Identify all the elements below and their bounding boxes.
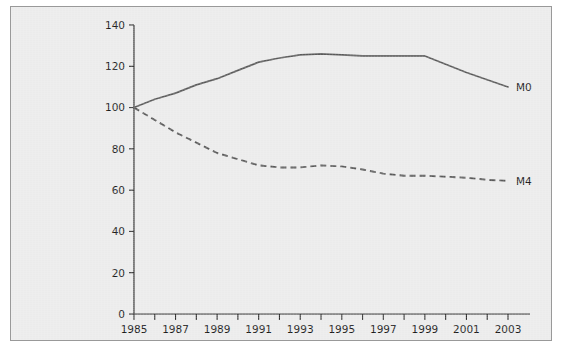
series-line-m4 [134,108,508,181]
y-tick-label: 140 [105,19,125,31]
chart-figure: 020406080100120140 198519871989199119931… [10,6,552,341]
x-tick-label: 1997 [370,323,397,335]
x-tick-label: 2003 [495,323,522,335]
y-tick-label: 100 [105,101,125,113]
x-axis: 1985198719891991199319951997199920012003 [121,314,530,335]
x-tick-label: 1987 [162,323,189,335]
y-tick-label: 40 [112,225,125,237]
x-tick-label: 1995 [328,323,355,335]
line-chart: 020406080100120140 198519871989199119931… [11,7,553,342]
x-tick-label: 1993 [287,323,314,335]
series-label-m0: M0 [516,81,532,93]
x-tick-label: 2001 [453,323,480,335]
x-tick-label: 1991 [245,323,272,335]
series-line-m0 [134,54,508,108]
y-tick-label: 0 [118,308,125,320]
y-tick-label: 120 [105,60,125,72]
x-tick-label: 1999 [412,323,439,335]
series-label-m4: M4 [516,175,532,187]
y-tick-label: 80 [112,143,125,155]
y-tick-label: 20 [112,267,125,279]
series-group [134,54,508,181]
series-labels: M0M4 [516,81,532,187]
y-tick-label: 60 [112,184,125,196]
x-tick-label: 1989 [204,323,231,335]
y-axis: 020406080100120140 [105,19,134,320]
x-tick-label: 1985 [121,323,148,335]
